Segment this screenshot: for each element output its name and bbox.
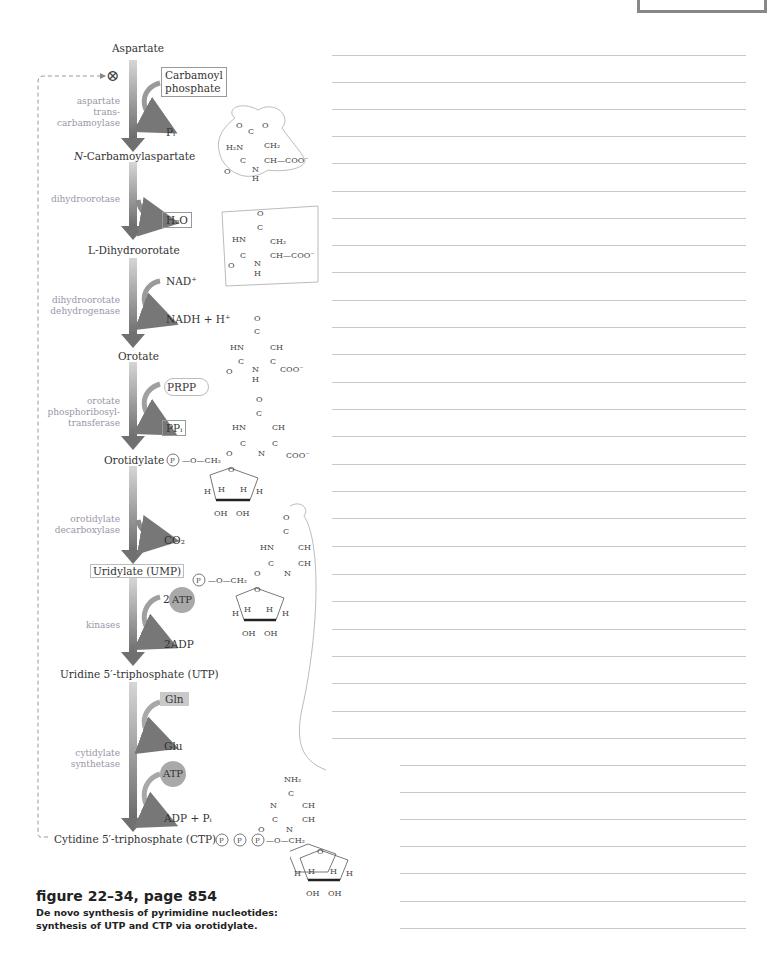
note-line (332, 711, 746, 712)
output-2adp: 2ADP (164, 638, 194, 650)
enzyme-orotate-phosphoribosyltransferase: orotate phosphoribosyl- transferase (30, 396, 120, 429)
svg-text:CH: CH (270, 343, 283, 352)
metabolite-orotidylate: Orotidylate (104, 454, 164, 466)
svg-text:O: O (226, 449, 233, 458)
svg-text:OH: OH (264, 629, 278, 638)
metabolite-l-dihydroorotate: L-Dihydroorotate (88, 244, 180, 256)
italic-prefix: N (74, 150, 83, 162)
svg-text:O: O (254, 585, 261, 594)
svg-text:O: O (254, 314, 261, 323)
main-arrow-segments (121, 60, 145, 832)
enzyme-kinases: kinases (30, 620, 120, 631)
annotation-pen-marks (290, 500, 400, 880)
svg-text:C: C (254, 327, 260, 336)
structure-orotate: OC HNCH CCCOO⁻ ONH (226, 314, 303, 384)
svg-text:N: N (252, 165, 259, 174)
input-prpp: PRPP (164, 378, 209, 396)
svg-text:CH—COO⁻: CH—COO⁻ (270, 251, 315, 260)
note-line (400, 819, 746, 820)
corner-tab-box (637, 0, 767, 13)
note-line (332, 109, 746, 110)
svg-text:P: P (196, 577, 201, 585)
svg-text:O: O (257, 209, 264, 218)
feedback-inhibition-line (38, 76, 105, 837)
note-line (332, 136, 746, 137)
note-line (332, 245, 746, 246)
input-2atp: 2 ATP (163, 587, 195, 613)
enzyme-line: orotate (30, 396, 120, 407)
svg-text:H₂N: H₂N (226, 143, 243, 152)
svg-text:C: C (248, 127, 254, 136)
svg-text:C: C (272, 815, 278, 824)
output-co2: CO₂ (164, 534, 185, 546)
note-line (400, 901, 746, 902)
note-line (400, 765, 746, 766)
note-line (332, 656, 746, 657)
svg-text:C: C (256, 409, 262, 418)
input-carbamoyl-phosphate: Carbamoyl phosphate (161, 67, 227, 97)
svg-text:O: O (283, 513, 290, 522)
svg-text:H: H (218, 485, 225, 494)
label-line: Carbamoyl (165, 69, 223, 82)
note-line (400, 792, 746, 793)
enzyme-orotidylate-decarboxylase: orotidylate decarboxylase (30, 514, 120, 536)
output-h2o: H₂O (162, 212, 192, 228)
structure-ctp-ribose: O HHHH OHOH (290, 840, 380, 910)
enzyme-line: cytidylate (30, 748, 120, 759)
svg-text:N: N (252, 365, 259, 374)
enzyme-line: aspartate (40, 96, 120, 107)
svg-text:N: N (258, 449, 265, 458)
note-line (332, 518, 746, 519)
svg-text:P: P (237, 837, 242, 845)
figure-title: figure 22–34, page 854 (36, 888, 217, 904)
metabolite-rest: -Carbamoylaspartate (83, 150, 195, 162)
svg-text:CH₂: CH₂ (270, 237, 286, 246)
structure-orotidylate: OC HNCH CCCOO⁻ ON P —O—CH₂ O HHHH OHOH (167, 395, 309, 518)
svg-text:CH—COO⁻: CH—COO⁻ (264, 156, 309, 165)
svg-text:HN: HN (260, 543, 274, 552)
note-line (332, 354, 746, 355)
atp-circle: ATP (169, 587, 195, 613)
svg-text:P: P (219, 837, 224, 845)
svg-text:P: P (170, 457, 175, 465)
metabolite-ump: Uridylate (UMP) (90, 564, 184, 578)
enzyme-line: decarboxylase (30, 525, 120, 536)
note-line (400, 928, 746, 929)
svg-text:HN: HN (230, 343, 244, 352)
note-line (332, 464, 746, 465)
note-line (332, 272, 746, 273)
svg-text:COO⁻: COO⁻ (286, 451, 309, 460)
note-line (332, 82, 746, 83)
enzyme-line: dihydroorotase (30, 194, 120, 205)
enzyme-line: dihydroorotate (30, 295, 120, 306)
note-line (332, 300, 746, 301)
svg-text:C: C (272, 439, 278, 448)
metabolite-utp: Uridine 5′-triphosphate (UTP) (60, 668, 219, 680)
svg-text:H: H (232, 609, 239, 618)
svg-text:H: H (282, 609, 289, 618)
svg-text:H: H (252, 375, 259, 384)
svg-text:O: O (258, 825, 265, 834)
input-gln: Gln (160, 692, 189, 706)
note-line (332, 382, 746, 383)
output-nadh: NADH + H⁺ (166, 313, 231, 325)
output-glu: Glu (164, 740, 183, 752)
note-line (332, 409, 746, 410)
svg-text:H: H (330, 867, 337, 876)
note-line (332, 163, 746, 164)
note-line (332, 436, 746, 437)
output-adp-pi: ADP + Pᵢ (164, 812, 212, 824)
note-line (332, 491, 746, 492)
label-line: phosphate (165, 82, 223, 95)
note-line (332, 683, 746, 684)
svg-text:H: H (244, 605, 251, 614)
svg-text:C: C (240, 439, 246, 448)
enzyme-line: carbamoylase (40, 118, 120, 129)
enzyme-aspartate-transcarbamoylase: aspartate trans- carbamoylase (40, 96, 120, 129)
svg-text:H: H (308, 867, 315, 876)
svg-text:—O—CH₂: —O—CH₂ (182, 456, 221, 465)
structure-dihydroorotate: OC HNCH₂ CCH—COO⁻ ONH (222, 206, 318, 286)
note-line (332, 546, 746, 547)
svg-text:O: O (256, 395, 263, 404)
enzyme-dihydroorotase: dihydroorotase (30, 194, 120, 205)
